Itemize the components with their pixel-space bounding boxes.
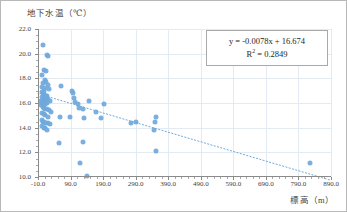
x-axis-line <box>38 176 331 177</box>
y-axis-title: 地下水温（℃） <box>27 6 92 18</box>
y-tick-minor <box>36 41 38 42</box>
x-tick-minor <box>188 177 189 179</box>
y-tick-label: 12.0 <box>5 148 31 156</box>
y-tick-minor <box>36 35 38 36</box>
chart-figure: 地下水温（℃） -10.090.0190.0290.0390.0490.0590… <box>0 0 347 212</box>
x-tick-minor <box>97 177 98 179</box>
data-point <box>101 102 106 107</box>
data-point <box>134 120 139 125</box>
x-tick-minor <box>51 177 52 179</box>
x-tick-minor <box>116 177 117 179</box>
data-point <box>153 120 158 125</box>
data-point <box>153 114 158 119</box>
x-tick-minor <box>123 177 124 179</box>
data-point <box>43 68 48 73</box>
data-point <box>93 109 98 114</box>
x-tick-label: 890.0 <box>323 180 339 188</box>
r-squared-value: R2 = 0.2849 <box>213 47 321 60</box>
y-tick-label: 14.0 <box>5 124 31 132</box>
x-tick-minor <box>64 177 65 179</box>
data-point <box>80 140 85 145</box>
x-tick-minor <box>58 177 59 179</box>
y-tick-label: 10.0 <box>5 173 31 181</box>
x-tick-minor <box>318 177 319 179</box>
y-tick <box>35 29 38 30</box>
x-tick-label: 190.0 <box>95 180 111 188</box>
y-tick-minor <box>36 171 38 172</box>
x-tick-label: 590.0 <box>225 180 241 188</box>
data-point <box>47 87 52 92</box>
x-tick-minor <box>45 177 46 179</box>
data-point <box>98 115 103 120</box>
x-tick-minor <box>272 177 273 179</box>
x-tick-label: -10.0 <box>31 180 46 188</box>
data-point <box>80 107 85 112</box>
y-tick-minor <box>36 66 38 67</box>
x-tick-minor <box>253 177 254 179</box>
x-tick-minor <box>194 177 195 179</box>
y-tick-minor <box>36 60 38 61</box>
y-tick-minor <box>36 115 38 116</box>
x-tick-minor <box>227 177 228 179</box>
data-point <box>307 161 312 166</box>
x-tick-minor <box>149 177 150 179</box>
y-tick <box>35 54 38 55</box>
y-tick-minor <box>36 146 38 147</box>
data-point <box>45 127 50 132</box>
y-tick-label: 20.0 <box>5 50 31 58</box>
x-tick-label: 790.0 <box>291 180 307 188</box>
data-point <box>57 141 62 146</box>
y-tick-minor <box>36 48 38 49</box>
data-point <box>47 98 52 103</box>
data-point <box>58 114 63 119</box>
x-tick-minor <box>240 177 241 179</box>
data-point <box>77 160 82 165</box>
y-tick-minor <box>36 140 38 141</box>
regression-equation: y = -0.0078x + 16.674 <box>213 35 321 47</box>
y-tick-minor <box>36 85 38 86</box>
y-tick-minor <box>36 72 38 73</box>
y-tick <box>35 177 38 178</box>
x-tick-minor <box>181 177 182 179</box>
data-point <box>45 114 50 119</box>
x-tick-minor <box>155 177 156 179</box>
x-tick-minor <box>220 177 221 179</box>
x-tick-minor <box>311 177 312 179</box>
data-point <box>86 98 91 103</box>
y-tick <box>35 103 38 104</box>
y-tick <box>35 152 38 153</box>
trendline-equation-box: y = -0.0078x + 16.674 R2 = 0.2849 <box>206 30 328 66</box>
x-tick-minor <box>84 177 85 179</box>
x-tick-minor <box>90 177 91 179</box>
data-point <box>67 115 72 120</box>
y-tick-minor <box>36 91 38 92</box>
x-axis-title: 標高（m） <box>290 193 334 205</box>
x-tick-label: 390.0 <box>160 180 176 188</box>
data-point <box>48 121 53 126</box>
y-axis-line <box>38 29 39 177</box>
r2-number: = 0.2849 <box>255 49 287 59</box>
x-tick-minor <box>292 177 293 179</box>
x-tick-minor <box>207 177 208 179</box>
x-tick-minor <box>214 177 215 179</box>
x-tick-label: 490.0 <box>193 180 209 188</box>
y-tick-minor <box>36 109 38 110</box>
y-tick-minor <box>36 97 38 98</box>
y-tick-minor <box>36 165 38 166</box>
data-point <box>49 109 54 114</box>
x-tick-minor <box>162 177 163 179</box>
y-tick-label: 16.0 <box>5 99 31 107</box>
data-point <box>46 54 51 59</box>
data-point <box>151 128 156 133</box>
x-tick-minor <box>305 177 306 179</box>
x-tick-minor <box>77 177 78 179</box>
y-tick-label: 18.0 <box>5 74 31 82</box>
y-tick-minor <box>36 159 38 160</box>
x-tick-label: 90.0 <box>64 180 76 188</box>
data-point <box>82 115 87 120</box>
x-tick-minor <box>110 177 111 179</box>
data-point <box>128 121 133 126</box>
y-tick-minor <box>36 122 38 123</box>
x-tick-minor <box>129 177 130 179</box>
x-tick-minor <box>279 177 280 179</box>
